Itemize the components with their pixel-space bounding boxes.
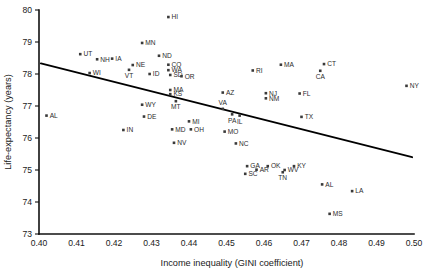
point-marker: [283, 169, 286, 172]
point-marker: [351, 190, 354, 193]
point-marker: [280, 63, 283, 66]
point-marker: [265, 92, 268, 95]
data-point: VT: [125, 69, 133, 80]
point-marker: [298, 92, 301, 95]
data-point: AZ: [221, 89, 234, 96]
point-label: TX: [305, 113, 314, 120]
point-marker: [88, 72, 91, 75]
y-axis-title: Life-expectancy (years): [3, 74, 13, 170]
point-label: AL: [50, 112, 58, 119]
point-marker: [171, 128, 174, 131]
point-label: MA: [284, 61, 294, 68]
point-label: MN: [145, 39, 155, 46]
point-marker: [158, 54, 161, 57]
point-marker: [238, 114, 241, 117]
data-point: IN: [122, 126, 133, 133]
point-marker: [141, 103, 144, 106]
point-marker: [188, 120, 191, 123]
point-label: CA: [316, 73, 326, 80]
point-label: MS: [333, 210, 343, 217]
data-point: MO: [223, 128, 238, 135]
data-point: WY: [141, 101, 157, 108]
point-label: MD: [175, 126, 185, 133]
x-tick-label: 0.42: [106, 238, 123, 248]
point-label: PA: [228, 117, 237, 124]
y-tick-label: 76: [22, 133, 32, 143]
point-marker: [265, 97, 268, 100]
y-tick-label: 80: [22, 5, 32, 15]
x-axis-title: Income inequality (GINI coefficient): [161, 258, 304, 268]
y-tick-label: 79: [22, 37, 32, 47]
point-marker: [293, 165, 296, 168]
data-point: DE: [143, 113, 157, 120]
point-label: KY: [297, 162, 306, 169]
data-point: UT: [79, 50, 92, 57]
point-label: ID: [153, 70, 160, 77]
point-label: SC: [248, 170, 257, 177]
data-point: ID: [148, 70, 159, 77]
point-marker: [167, 69, 170, 72]
x-tick-label: 0.49: [368, 238, 385, 248]
point-marker: [169, 74, 172, 77]
y-axis-tick-labels: 7374757677787980: [22, 5, 32, 239]
point-marker: [244, 173, 247, 176]
data-point: OH: [190, 126, 205, 133]
x-tick-label: 0.40: [31, 238, 48, 248]
point-label: WY: [145, 101, 156, 108]
x-axis-tick-labels: 0.400.410.420.430.440.450.460.470.480.49…: [31, 238, 423, 248]
point-marker: [122, 129, 125, 132]
point-label: CT: [327, 60, 336, 67]
data-point: IA: [111, 55, 122, 62]
point-marker: [221, 91, 224, 94]
point-marker: [223, 130, 226, 133]
data-point: FL: [298, 90, 311, 97]
point-marker: [281, 171, 284, 174]
trend-line: [41, 63, 412, 157]
point-marker: [190, 128, 193, 131]
data-point: MA: [280, 61, 295, 68]
point-marker: [45, 114, 48, 117]
point-marker: [321, 183, 324, 186]
x-tick-label: 0.48: [331, 238, 348, 248]
data-point: AL: [321, 181, 334, 188]
data-point: ND: [158, 52, 172, 59]
point-marker: [96, 58, 99, 61]
data-point: SC: [244, 170, 258, 177]
point-label: AL: [325, 181, 333, 188]
y-tick-label: 73: [22, 229, 32, 239]
point-label: NE: [136, 61, 146, 68]
point-label: FL: [303, 90, 311, 97]
data-point: RI: [251, 67, 262, 74]
point-marker: [173, 142, 176, 145]
point-marker: [328, 213, 331, 216]
point-marker: [319, 70, 322, 73]
x-tick-label: 0.50: [406, 238, 423, 248]
point-label: MT: [171, 103, 181, 110]
point-label: IN: [127, 126, 134, 133]
point-marker: [128, 69, 131, 72]
data-point: GA: [246, 162, 261, 169]
point-label: NH: [100, 56, 110, 63]
data-point: NY: [405, 82, 419, 89]
data-point: MS: [328, 210, 343, 217]
x-tick-label: 0.47: [293, 238, 310, 248]
y-tick-label: 77: [22, 101, 32, 111]
point-label: TN: [278, 174, 287, 181]
data-point: NM: [265, 95, 280, 102]
point-marker: [167, 63, 170, 66]
data-point: CA: [316, 70, 326, 81]
point-label: OH: [194, 126, 204, 133]
y-tick-label: 74: [22, 197, 32, 207]
point-marker: [79, 53, 82, 56]
point-label: RI: [256, 67, 263, 74]
data-point: MI: [188, 118, 200, 125]
point-marker: [246, 165, 249, 168]
point-label: UT: [83, 50, 92, 57]
point-label: HI: [172, 13, 179, 20]
data-point: TX: [300, 113, 314, 120]
data-point: MN: [141, 39, 156, 46]
point-label: NC: [239, 140, 249, 147]
point-label: DE: [147, 113, 157, 120]
point-label: ND: [162, 52, 172, 59]
y-tick-label: 78: [22, 69, 32, 79]
